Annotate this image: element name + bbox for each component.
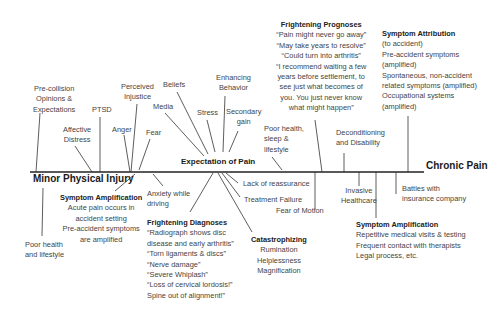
factor-affective-distress: Affective Distress — [63, 125, 91, 146]
factor-ptsd: PTSD — [92, 105, 112, 115]
factor-secondary-gain: Secondary gain — [226, 107, 261, 128]
factor-fear-of-motion: Fear of Motion — [276, 206, 324, 216]
fishbone-diagram: Minor Physical Injury Chronic Pain Expec… — [0, 0, 500, 313]
block-symptom-amplification-acute: Symptom Amplification Acute pain occurs … — [60, 193, 142, 245]
start-node-minor-physical-injury: Minor Physical Injury — [33, 174, 134, 184]
center-node-expectation-of-pain: Expectation of Pain — [181, 157, 255, 167]
factor-invasive-healthcare: Invasive Healthcare — [341, 186, 377, 207]
factor-anger: Anger — [112, 125, 132, 135]
factor-battles-insurance: Battles with insurance company — [402, 184, 466, 205]
block-symptom-attribution: Symptom Attribution (to accident) Pre-ac… — [382, 29, 477, 112]
factor-poor-health-lifestyle: Poor health and lifestyle — [25, 240, 64, 261]
factor-beliefs: Beliefs — [163, 80, 185, 90]
factor-poor-health-sleep-lifestyle: Poor health, sleep & lifestyle — [264, 124, 304, 155]
block-catastrophizing: Catastrophizing Rumination Helplessness … — [251, 235, 307, 277]
block-frightening-prognoses: Frightening Prognoses “Pain might never … — [276, 20, 366, 114]
factor-treatment-failure: Treatment Failure — [244, 195, 302, 205]
factor-perceived-injustice: Perceived Injustice — [121, 82, 154, 103]
block-frightening-diagnoses: Frightening Diagnoses “Radiograph shows … — [147, 218, 234, 301]
factor-enhancing-behavior: Enhancing Behavior — [216, 73, 251, 94]
factor-deconditioning-disability: Deconditioning and Disability — [336, 128, 385, 149]
factor-fear: Fear — [146, 128, 161, 138]
factor-anxiety-while-driving: Anxiety while driving — [147, 189, 190, 210]
end-node-chronic-pain: Chronic Pain — [426, 161, 488, 171]
factor-lack-of-reassurance: Lack of reassurance — [243, 179, 310, 189]
factor-pre-collision-opinions: Pre-collision Opinions & Expectations — [33, 84, 75, 115]
factor-media: Media — [153, 102, 173, 112]
factor-stress: Stress — [197, 108, 218, 118]
block-symptom-amplification-chronic: Symptom Amplification Repetitive medical… — [356, 220, 466, 262]
